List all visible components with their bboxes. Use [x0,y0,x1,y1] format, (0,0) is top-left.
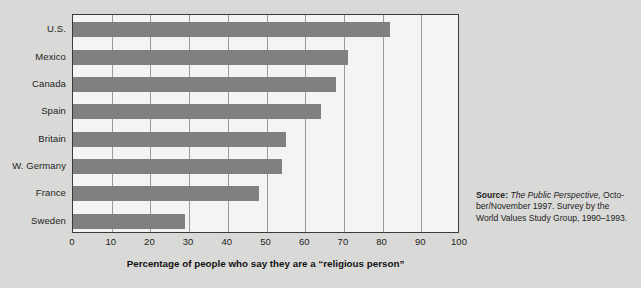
source-note: Source: The Public Perspective, Octo- be… [476,190,632,224]
bar [73,50,348,65]
category-label: W. Germany [0,158,66,173]
x-tick-label: 50 [260,236,271,247]
source-publication: The Public Perspective, [510,190,600,200]
category-label: Britain [0,131,66,146]
x-tick-label: 10 [105,236,116,247]
x-tick-label: 90 [415,236,426,247]
x-axis-title: Percentage of people who say they are a … [72,258,459,269]
x-tick-label: 30 [183,236,194,247]
bar [73,104,321,119]
category-label: U.S. [0,21,66,36]
bar [73,186,259,201]
source-line3: World Values Study Group, 1990–1993. [476,213,627,223]
cropped-title-remnant [40,0,300,3]
category-label: Canada [0,76,66,91]
source-label: Source: [476,190,508,200]
x-tick-label: 40 [222,236,233,247]
bar [73,77,336,92]
bar [73,214,185,229]
chart-figure: U.S.MexicoCanadaSpainBritainW. GermanyFr… [0,0,641,288]
x-tick-label: 100 [451,236,467,247]
source-line1-tail: Octo- [601,190,624,200]
x-tick-label: 60 [299,236,310,247]
x-tick-label: 20 [144,236,155,247]
category-label: France [0,185,66,200]
category-label: Sweden [0,213,66,228]
category-axis-labels: U.S.MexicoCanadaSpainBritainW. GermanyFr… [0,14,66,233]
bars-container [73,15,458,232]
x-tick-label: 70 [338,236,349,247]
category-label: Spain [0,103,66,118]
x-tick-label: 80 [376,236,387,247]
x-tick-label: 0 [69,236,74,247]
bar [73,132,286,147]
bar [73,22,390,37]
plot-area [72,14,459,233]
category-label: Mexico [0,49,66,64]
bar [73,159,282,174]
source-line2: ber/November 1997. Survey by the [476,201,609,211]
value-axis-ticks: 0102030405060708090100 [0,236,641,252]
